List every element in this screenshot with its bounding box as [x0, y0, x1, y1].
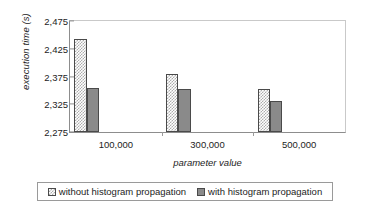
bar-with-histogram-propagation: [87, 88, 99, 132]
x-axis-tick-label: 500,000: [282, 139, 316, 150]
bar-chart-figure: execution time (s) 2,4752,4252,3752,3252…: [0, 0, 370, 210]
bar-with-histogram-propagation: [178, 89, 190, 132]
bar-series-container: [70, 21, 345, 132]
x-axis-tick-mark: [162, 132, 163, 136]
y-axis-tick-label: 2,475: [44, 16, 68, 27]
legend-swatch-icon: [48, 188, 56, 196]
x-axis-title: parameter value: [69, 157, 346, 168]
y-axis-tick-label: 2,275: [44, 127, 68, 138]
bar-group: [70, 21, 162, 132]
bar-group: [162, 21, 254, 132]
y-axis-tick-label: 2,375: [44, 71, 68, 82]
plot-area: 2,4752,4252,3752,3252,275 100,000300,000…: [69, 20, 346, 133]
legend-item-label: without histogram propagation: [59, 186, 186, 197]
bar-with-histogram-propagation: [270, 101, 282, 132]
legend-item: without histogram propagation: [48, 186, 186, 197]
legend-item-label: with histogram propagation: [208, 186, 322, 197]
y-axis-title: execution time (s): [20, 0, 31, 107]
bar-without-histogram-propagation: [74, 39, 86, 132]
y-axis-tick-label: 2,325: [44, 99, 68, 110]
x-axis-tick-mark: [253, 132, 254, 136]
x-axis-tick-label: 300,000: [190, 139, 224, 150]
legend-item: with histogram propagation: [197, 186, 322, 197]
chart-legend: without histogram propagationwith histog…: [37, 182, 333, 201]
legend-swatch-icon: [197, 188, 205, 196]
bar-without-histogram-propagation: [166, 74, 178, 132]
x-axis-tick-label: 100,000: [99, 139, 133, 150]
bar-without-histogram-propagation: [258, 89, 270, 132]
y-axis-tick-label: 2,425: [44, 43, 68, 54]
bar-group: [253, 21, 345, 132]
